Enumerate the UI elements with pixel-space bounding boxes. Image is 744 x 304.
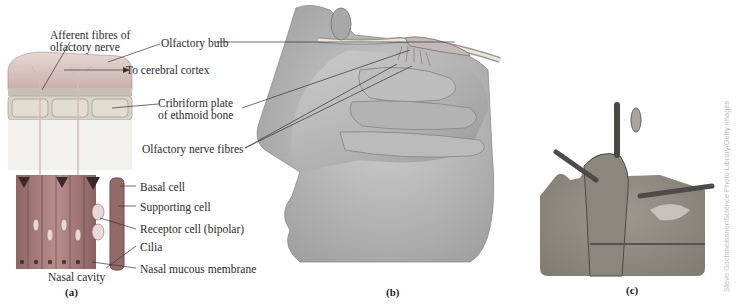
caption-a: (a) bbox=[65, 286, 78, 298]
label-to-cerebral-cortex: To cerebral cortex bbox=[126, 64, 209, 76]
label-olfactory-bulb: Olfactory bulb bbox=[161, 37, 228, 49]
label-afferent-fibres-line1: Afferent fibres of bbox=[50, 29, 130, 41]
label-olfactory-nerve-fibres: Olfactory nerve fibres bbox=[142, 143, 244, 155]
image-credit: Steve Gschmeissner/Science Photo Library… bbox=[722, 101, 731, 292]
label-nasal-mucous-membrane: Nasal mucous membrane bbox=[140, 263, 256, 275]
caption-c: (c) bbox=[626, 284, 638, 296]
label-afferent-fibres-line2: olfactory nerve bbox=[50, 41, 120, 53]
panel-a-illustration bbox=[8, 52, 132, 270]
label-nasal-cavity: Nasal cavity bbox=[48, 271, 105, 283]
label-cribriform-line1: Cribriform plate bbox=[158, 97, 233, 109]
panel-b-illustration bbox=[257, 5, 500, 262]
label-cribriform-line2: of ethmoid bone bbox=[158, 109, 233, 121]
label-supporting-cell: Supporting cell bbox=[140, 201, 211, 213]
label-receptor-cell: Receptor cell (bipolar) bbox=[140, 223, 244, 235]
caption-b: (b) bbox=[386, 286, 399, 298]
label-basal-cell: Basal cell bbox=[140, 181, 185, 193]
panel-c-micrograph bbox=[540, 102, 712, 276]
label-cilia: Cilia bbox=[140, 241, 162, 253]
